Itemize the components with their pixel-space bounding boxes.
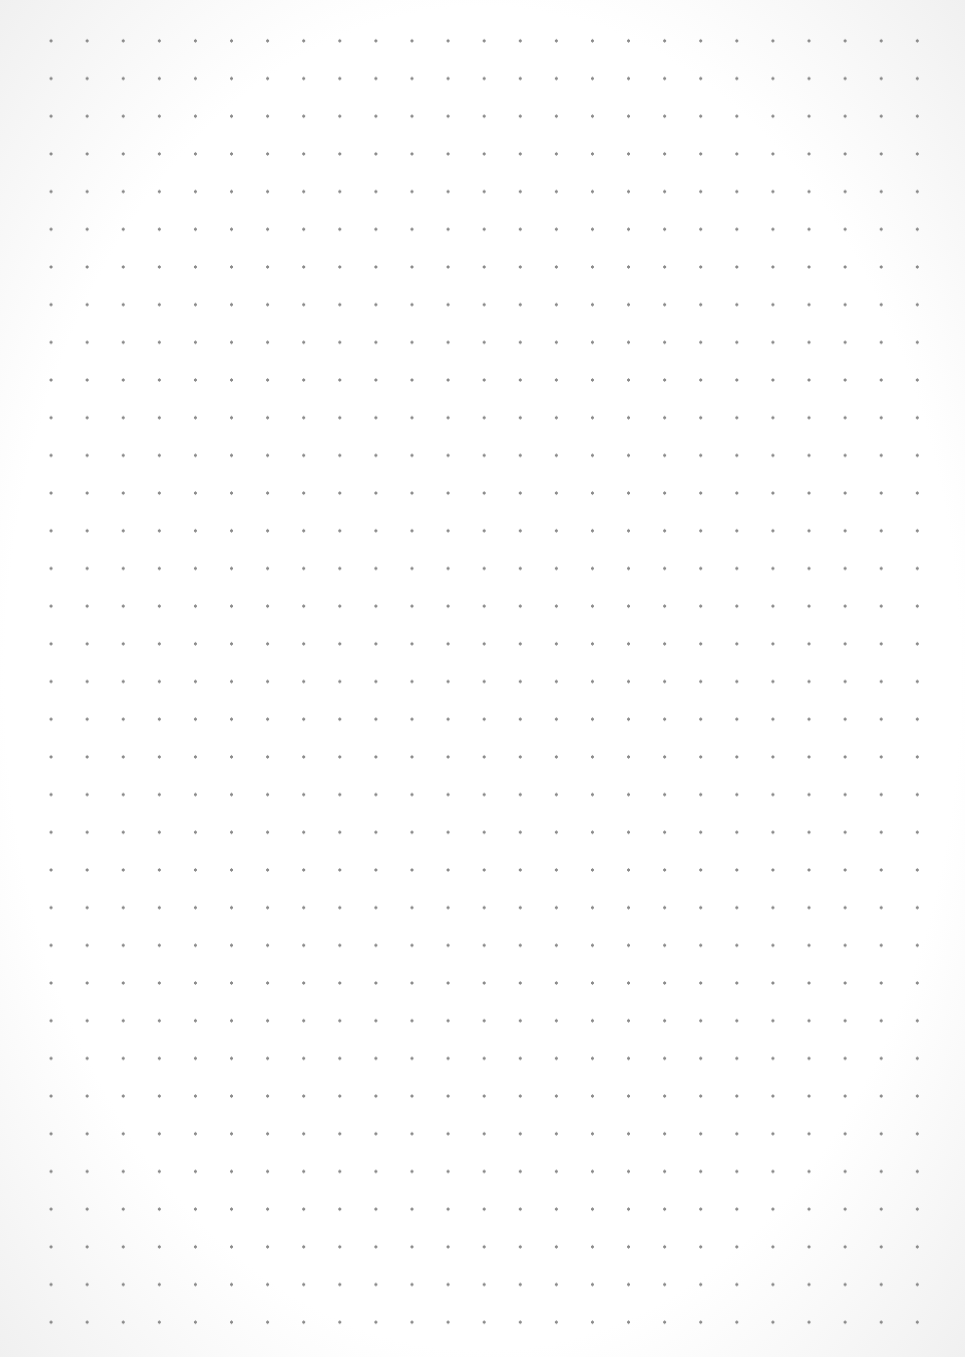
dot-grid xyxy=(33,22,948,1357)
dot-grid-paper xyxy=(0,0,965,1357)
